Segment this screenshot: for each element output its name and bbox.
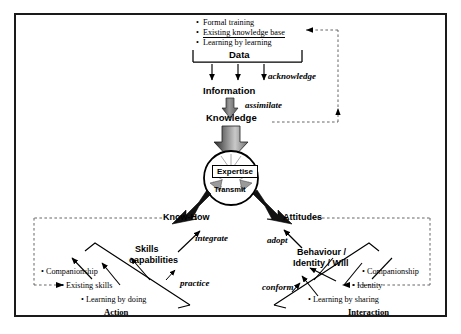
assimilate-label: assimilate bbox=[245, 101, 282, 110]
information-label: Information bbox=[203, 86, 255, 96]
action-item-0: • Companionship bbox=[41, 268, 98, 277]
top-item-1: • Existing knowledge base bbox=[196, 29, 285, 38]
behaviour-label-line1: Behaviour / bbox=[297, 248, 346, 257]
expertise-label: Expertise bbox=[212, 165, 258, 178]
behaviour-label-line2: Identity / Will bbox=[293, 259, 348, 268]
integrate-label: integrate bbox=[195, 234, 228, 243]
adopt-label: adopt bbox=[267, 236, 288, 245]
action-item-1: • Existing skills bbox=[61, 282, 113, 291]
attitudes-label: Attitudes bbox=[283, 213, 322, 222]
acknowledge-label: acknowledge bbox=[268, 72, 316, 81]
top-item-0: • Formal training bbox=[196, 19, 285, 28]
practice-label: practice bbox=[180, 279, 210, 288]
top-item-list: • Formal training • Existing knowledge b… bbox=[196, 19, 285, 49]
top-item-2: • Learning by learning bbox=[196, 39, 285, 48]
conform-label: conform bbox=[262, 283, 294, 292]
interaction-group-label: Interaction bbox=[348, 308, 389, 317]
transmit-label: Transmit bbox=[214, 185, 246, 194]
interaction-item-2: • Learning by sharing bbox=[308, 296, 379, 305]
know-how-label: Know-How bbox=[163, 213, 210, 222]
data-group-label: Data bbox=[229, 50, 250, 60]
action-item-2: • Learning by doing bbox=[81, 296, 146, 305]
action-group-label: Action bbox=[104, 308, 128, 317]
skills-label-line2: capabilities bbox=[129, 256, 178, 265]
skills-label-line1: Skills bbox=[135, 245, 159, 254]
interaction-item-1: • Identity bbox=[352, 282, 382, 291]
diagram-canvas: • Formal training • Existing knowledge b… bbox=[0, 0, 461, 334]
knowledge-label: Knowledge bbox=[206, 113, 257, 123]
interaction-item-0: • Companionship bbox=[362, 268, 419, 277]
